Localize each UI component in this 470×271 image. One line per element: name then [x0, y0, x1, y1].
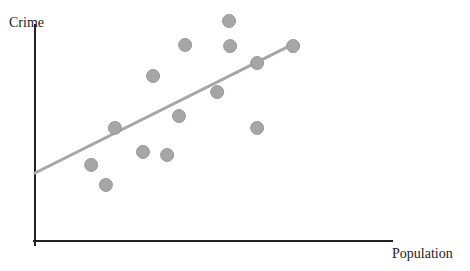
- data-point: [223, 15, 236, 28]
- data-point: [179, 38, 192, 51]
- data-point: [85, 158, 98, 171]
- data-point: [147, 70, 160, 83]
- data-point: [99, 178, 112, 191]
- data-point: [161, 148, 174, 161]
- data-point: [211, 86, 224, 99]
- data-point: [251, 121, 264, 134]
- data-point: [173, 110, 186, 123]
- data-point: [287, 40, 300, 53]
- data-point: [251, 57, 264, 70]
- data-point: [224, 40, 237, 53]
- y-axis-label: Crime: [9, 15, 44, 31]
- data-points: [85, 15, 300, 192]
- scatter-chart: [0, 0, 470, 271]
- data-point: [137, 145, 150, 158]
- data-point: [108, 121, 121, 134]
- x-axis-label: Population: [392, 246, 453, 262]
